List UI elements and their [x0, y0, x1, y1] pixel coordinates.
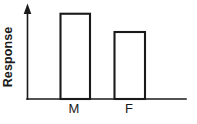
bar-f — [115, 32, 146, 99]
x-tick-label-f: F — [125, 101, 133, 116]
bar-m — [61, 14, 91, 99]
chart-canvas: Response M F — [0, 0, 197, 124]
bar-chart-figure: Response M F — [0, 0, 197, 124]
y-axis-title: Response — [1, 27, 15, 88]
y-axis-arrow-icon — [24, 4, 32, 15]
x-tick-label-m: M — [69, 101, 80, 116]
